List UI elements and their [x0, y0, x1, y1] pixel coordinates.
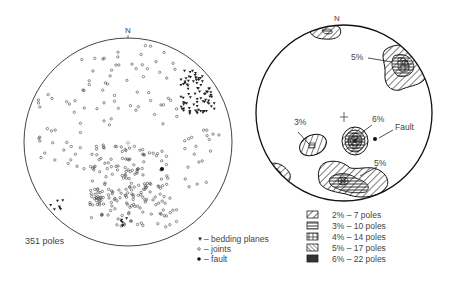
contour-zones — [265, 25, 426, 197]
legend-bedding: – bedding planes — [204, 234, 269, 244]
annotation-5pct-ne: 5% — [351, 52, 364, 62]
contour-legend: 2% – 7 poles 3% – 10 poles 4% – 14 poles… — [307, 210, 386, 264]
left-north-label: N — [125, 26, 131, 35]
legend-4pct: 4% – 14 poles — [332, 232, 386, 242]
legend-3pct: 3% – 10 poles — [332, 221, 386, 231]
pole-count-label: 351 poles — [25, 236, 65, 246]
fault-point — [373, 137, 377, 141]
dot-icon — [197, 257, 201, 261]
legend-5pct: 5% – 17 poles — [332, 243, 386, 253]
annotation-3pct: 3% — [294, 117, 307, 127]
grid-hatch-icon — [307, 233, 318, 240]
circle-icon — [198, 248, 201, 251]
solid-fill-icon — [307, 255, 318, 262]
annotation-fault: Fault — [395, 122, 415, 132]
legend-6pct: 6% – 22 poles — [332, 254, 386, 264]
legend-joints: – joints — [204, 244, 231, 254]
diag-hatch-icon — [307, 211, 318, 218]
legend-2pct: 2% – 7 poles — [332, 210, 381, 220]
right-contour-diagram: N — [256, 14, 432, 264]
center-cross-icon — [340, 112, 348, 122]
center-cross-icon — [125, 140, 131, 146]
right-north-label: N — [334, 14, 340, 23]
horizontal-hatch-icon — [307, 222, 318, 229]
stereonet-figure: N 351 poles ▼ – bedding planes – joints … — [0, 0, 453, 281]
left-legend: ▼ – bedding planes – joints – fault — [197, 234, 269, 264]
dense-hatch-icon — [307, 244, 318, 251]
left-pole-diagram: N 351 poles ▼ – bedding planes – joints … — [24, 26, 269, 264]
annotation-6pct: 6% — [372, 114, 385, 124]
legend-fault: – fault — [204, 254, 228, 264]
fault-pole — [160, 167, 164, 171]
annotation-5pct-s: 5% — [374, 158, 387, 168]
triangle-icon: ▼ — [197, 236, 203, 242]
